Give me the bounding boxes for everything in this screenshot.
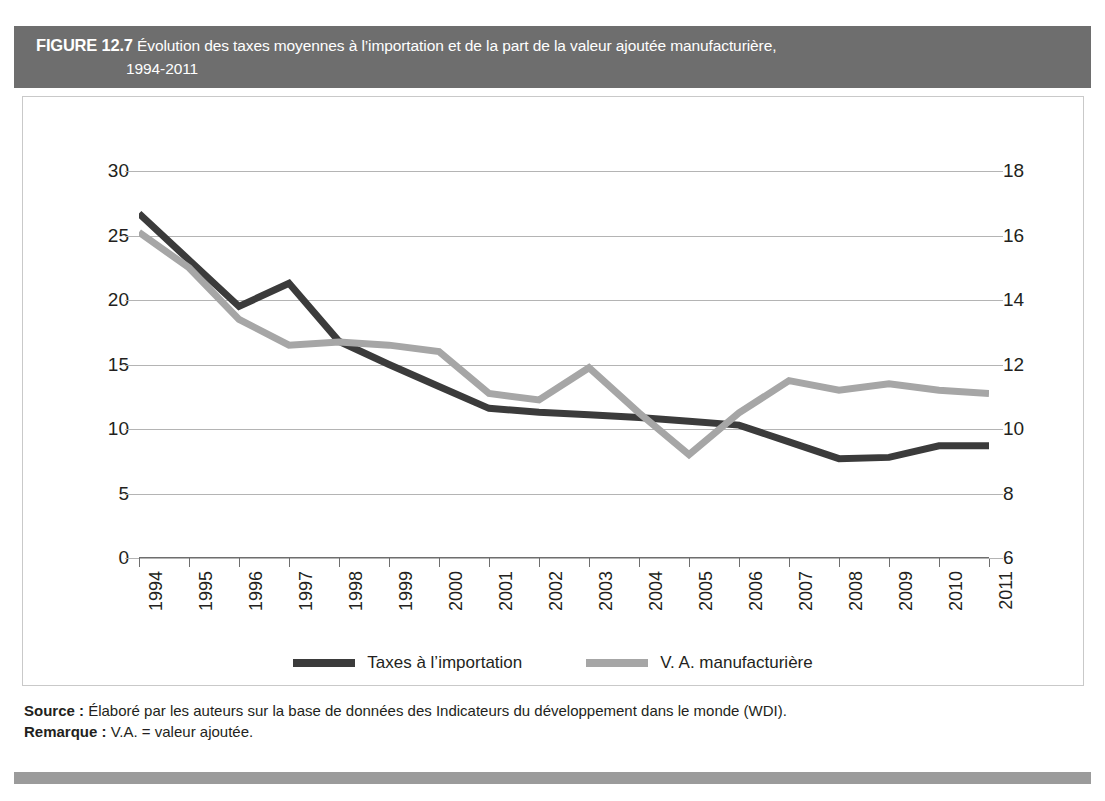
y-tick-label-right: 12: [1003, 354, 1053, 376]
x-axis: 1994199519961997199819992000200120022003…: [139, 558, 989, 648]
y-tick-label-right: 16: [1003, 225, 1053, 247]
x-tick-mark: [789, 558, 790, 567]
y-tick-mark-right: [989, 429, 1003, 430]
y-tick-mark-right: [989, 365, 1003, 366]
y-tick-mark-left: [125, 558, 139, 559]
legend-item: V. A. manufacturière: [586, 653, 812, 673]
x-tick-mark: [889, 558, 890, 567]
x-tick-label: 1995: [196, 571, 217, 611]
x-tick-mark: [689, 558, 690, 567]
legend-item: Taxes à l’importation: [293, 653, 522, 673]
y-tick-mark-left: [125, 494, 139, 495]
y-axis-right-labels: 681012141618: [1003, 171, 1059, 558]
x-tick-label: 2007: [796, 571, 817, 611]
x-tick-label: 2011: [996, 571, 1017, 610]
x-tick-mark: [739, 558, 740, 567]
x-tick-mark: [439, 558, 440, 567]
figure-header: FIGURE 12.7 Évolution des taxes moyennes…: [14, 26, 1091, 88]
x-tick-label: 2008: [846, 571, 867, 611]
source-note: Source : Élaboré par les auteurs sur la …: [24, 700, 1084, 721]
x-tick-mark: [489, 558, 490, 567]
y-tick-mark-left: [125, 171, 139, 172]
y-tick-label-right: 8: [1003, 483, 1053, 505]
remark-label: Remarque :: [24, 723, 107, 740]
y-tick-label-left: 20: [83, 289, 129, 311]
x-tick-label: 2009: [896, 571, 917, 611]
legend-swatch: [293, 659, 355, 667]
y-tick-mark-left: [125, 365, 139, 366]
x-tick-label: 1999: [396, 571, 417, 611]
footer-bar: [14, 772, 1091, 784]
series-line: [139, 232, 989, 455]
x-tick-label: 1998: [346, 571, 367, 611]
y-tick-label-left: 30: [83, 160, 129, 182]
x-tick-label: 2010: [946, 571, 967, 611]
figure-page: FIGURE 12.7 Évolution des taxes moyennes…: [0, 0, 1105, 801]
y-axis-left-labels: 051015202530: [77, 171, 129, 558]
chart-legend: Taxes à l’importationV. A. manufacturièr…: [23, 653, 1083, 673]
x-tick-mark: [239, 558, 240, 567]
y-tick-label-right: 14: [1003, 289, 1053, 311]
x-tick-label: 1997: [296, 571, 317, 611]
source-label: Source :: [24, 702, 84, 719]
x-tick-mark: [939, 558, 940, 567]
y-tick-mark-right: [989, 300, 1003, 301]
y-tick-mark-left: [125, 236, 139, 237]
x-tick-mark: [839, 558, 840, 567]
x-tick-mark: [989, 558, 990, 567]
x-tick-label: 2005: [696, 571, 717, 611]
x-tick-label: 2004: [646, 571, 667, 611]
legend-label: Taxes à l’importation: [367, 653, 522, 673]
legend-label: V. A. manufacturière: [660, 653, 812, 673]
y-tick-mark-left: [125, 300, 139, 301]
plot-area: [139, 171, 989, 558]
figure-title-line-1: FIGURE 12.7 Évolution des taxes moyennes…: [36, 34, 1075, 57]
x-tick-label: 1996: [246, 571, 267, 611]
y-tick-label-left: 15: [83, 354, 129, 376]
series-lines: [139, 171, 989, 558]
figure-number-label: FIGURE 12.7: [36, 36, 133, 54]
remark-text: V.A. = valeur ajoutée.: [111, 723, 253, 740]
x-tick-mark: [589, 558, 590, 567]
x-tick-mark: [339, 558, 340, 567]
remark-note: Remarque : V.A. = valeur ajoutée.: [24, 721, 1084, 742]
y-tick-mark-right: [989, 558, 1003, 559]
x-tick-mark: [139, 558, 140, 567]
y-tick-label-left: 25: [83, 225, 129, 247]
x-tick-label: 2001: [496, 571, 517, 611]
figure-notes: Source : Élaboré par les auteurs sur la …: [24, 700, 1084, 742]
source-text: Élaboré par les auteurs sur la base de d…: [88, 702, 787, 719]
x-tick-mark: [389, 558, 390, 567]
x-tick-label: 2002: [546, 571, 567, 611]
figure-title-text: Évolution des taxes moyennes à l’importa…: [137, 37, 776, 54]
x-tick-label: 2006: [746, 571, 767, 611]
x-tick-mark: [539, 558, 540, 567]
chart-panel: 051015202530 681012141618 19941995199619…: [22, 96, 1084, 686]
x-tick-mark: [289, 558, 290, 567]
y-tick-mark-left: [125, 429, 139, 430]
y-tick-label-right: 10: [1003, 418, 1053, 440]
x-tick-label: 2000: [446, 571, 467, 611]
y-tick-label-right: 18: [1003, 160, 1053, 182]
x-tick-mark: [189, 558, 190, 567]
y-tick-mark-right: [989, 236, 1003, 237]
y-tick-mark-right: [989, 171, 1003, 172]
x-tick-label: 1994: [146, 571, 167, 611]
legend-swatch: [586, 659, 648, 667]
x-tick-label: 2003: [596, 571, 617, 611]
y-tick-label-left: 5: [83, 483, 129, 505]
y-tick-label-left: 10: [83, 418, 129, 440]
y-tick-mark-right: [989, 494, 1003, 495]
y-tick-label-right: 6: [1003, 547, 1053, 569]
y-tick-label-left: 0: [83, 547, 129, 569]
figure-title-line-2: 1994-2011: [36, 57, 1075, 80]
x-tick-mark: [639, 558, 640, 567]
